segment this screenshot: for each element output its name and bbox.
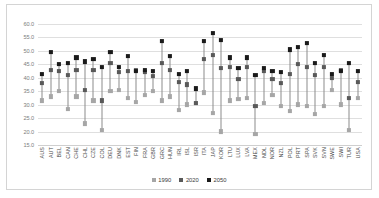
y-axis-tick-label: 50.0: [24, 48, 35, 54]
data-point-marker-2020: [194, 101, 198, 105]
data-point-marker-1990: [66, 107, 70, 111]
data-point-marker-2020: [219, 66, 223, 70]
x-axis-tick-label: SWI: [338, 147, 344, 157]
data-point-marker-1990: [142, 93, 146, 97]
data-point-column: [260, 24, 269, 145]
data-point-marker-2050: [245, 56, 249, 60]
data-point-marker-2050: [202, 39, 206, 43]
connector-stem: [238, 68, 239, 99]
x-axis-tick-label: SVN: [321, 147, 327, 158]
data-point-marker-2050: [279, 70, 283, 74]
data-point-marker-2050: [91, 57, 95, 61]
x-axis-tick-label: KOR: [218, 147, 224, 159]
x-axis-tick-label: LTU: [227, 147, 233, 157]
data-point-marker-2050: [339, 69, 343, 73]
connector-stem: [84, 62, 85, 124]
data-point-column: [209, 24, 218, 145]
data-point-marker-2020: [347, 96, 351, 100]
connector-stem: [161, 41, 162, 100]
data-point-marker-2050: [253, 73, 257, 77]
data-point-column: [89, 24, 98, 145]
connector-stem: [93, 59, 94, 101]
x-axis-tick-label: AUT: [48, 147, 54, 158]
x-axis-tick-label: COL: [99, 147, 105, 158]
connector-stem: [323, 55, 324, 106]
data-point-marker-2050: [108, 50, 112, 54]
data-point-marker-2050: [236, 66, 240, 70]
data-point-marker-2020: [125, 69, 129, 73]
data-point-marker-2050: [347, 61, 351, 65]
x-axis-tick-label: JAP: [210, 147, 216, 157]
data-point-column: [140, 24, 149, 145]
legend-item-2020[interactable]: 2020: [179, 177, 199, 183]
data-point-marker-2050: [219, 38, 223, 42]
data-point-marker-1990: [262, 101, 266, 105]
data-point-marker-2020: [83, 88, 87, 92]
data-point-marker-1990: [108, 89, 112, 93]
data-point-marker-1990: [211, 111, 215, 115]
data-point-column: [98, 24, 107, 145]
x-axis-tick-label: POL: [287, 147, 293, 158]
data-point-marker-2020: [66, 73, 70, 77]
data-point-marker-1990: [185, 103, 189, 107]
data-point-marker-1990: [228, 99, 232, 103]
data-point-column: [183, 24, 192, 145]
x-axis-tick-label: ISL: [184, 147, 190, 155]
legend-swatch-icon: [179, 178, 183, 182]
data-point-column: [132, 24, 141, 145]
data-point-marker-2020: [236, 77, 240, 81]
data-point-marker-2020: [168, 68, 172, 72]
legend-item-2050[interactable]: 2050: [207, 177, 227, 183]
legend-swatch-icon: [152, 178, 156, 182]
data-point-marker-1990: [287, 109, 291, 113]
data-point-column: [149, 24, 158, 145]
data-point-marker-2020: [245, 65, 249, 69]
data-point-marker-2020: [160, 61, 164, 65]
data-point-marker-1990: [202, 90, 206, 94]
data-point-marker-2050: [194, 86, 198, 90]
x-axis-tick-label: SPA: [304, 147, 310, 158]
data-point-marker-1990: [177, 108, 181, 112]
chart-plot-wrapper: 60.055.050.045.040.035.030.025.020.015.0…: [7, 5, 371, 189]
data-point-column: [64, 24, 73, 145]
data-point-marker-2050: [296, 45, 300, 49]
data-point-marker-1990: [57, 89, 61, 93]
connector-stem: [289, 50, 290, 112]
data-point-marker-2050: [125, 54, 129, 58]
connector-stem: [306, 43, 307, 106]
data-point-column: [123, 24, 132, 145]
data-point-column: [115, 24, 124, 145]
data-point-marker-2050: [356, 69, 360, 73]
data-point-marker-2050: [40, 72, 44, 76]
data-point-marker-2050: [322, 53, 326, 57]
legend-label: 2050: [213, 177, 226, 183]
data-point-column: [353, 24, 362, 145]
legend-swatch-icon: [207, 178, 211, 182]
data-point-marker-2050: [134, 69, 138, 73]
x-axis-tick-label: CHE: [73, 147, 79, 159]
y-axis-tick-label: 35.0: [24, 88, 35, 94]
data-point-marker-2020: [108, 61, 112, 65]
data-point-marker-2050: [74, 56, 78, 60]
connector-stem: [204, 41, 205, 92]
data-point-marker-1990: [74, 95, 78, 99]
y-axis-tick-label: 40.0: [24, 75, 35, 81]
data-point-marker-1990: [100, 128, 104, 132]
connector-stem: [340, 70, 341, 105]
data-point-marker-2020: [270, 77, 274, 81]
connector-stem: [187, 71, 188, 105]
y-axis-tick-label: 25.0: [24, 115, 35, 121]
data-point-marker-1990: [168, 95, 172, 99]
data-point-column: [200, 24, 209, 145]
data-point-marker-2020: [304, 65, 308, 69]
data-point-column: [311, 24, 320, 145]
legend-item-1990[interactable]: 1990: [152, 177, 172, 183]
data-point-marker-1990: [339, 103, 343, 107]
data-point-marker-2020: [313, 73, 317, 77]
y-axis-tick-label: 55.0: [24, 34, 35, 40]
x-axis-tick-label: FRA: [142, 147, 148, 158]
data-point-marker-2020: [151, 74, 155, 78]
data-point-marker-2050: [100, 65, 104, 69]
data-point-marker-2020: [253, 104, 257, 108]
data-point-marker-2050: [262, 66, 266, 70]
